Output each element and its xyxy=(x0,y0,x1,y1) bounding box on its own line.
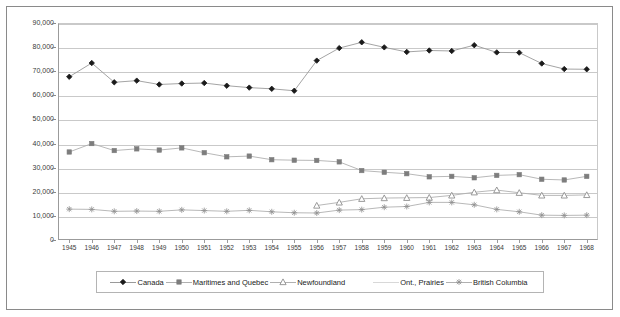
data-point-marker xyxy=(157,148,161,152)
data-point-marker xyxy=(494,207,499,212)
data-point-marker xyxy=(562,213,567,218)
data-point-marker xyxy=(112,148,116,152)
data-point-marker xyxy=(404,204,409,209)
data-point-marker xyxy=(180,146,184,150)
data-point-marker xyxy=(540,177,544,181)
data-point-marker xyxy=(247,85,252,90)
data-point-marker xyxy=(494,50,499,55)
series-line xyxy=(69,144,587,180)
data-point-marker xyxy=(337,208,342,213)
legend-item-canada[interactable]: Canada xyxy=(110,277,165,287)
data-point-marker xyxy=(121,279,126,284)
legend-item-label: British Columbia xyxy=(472,278,530,287)
data-point-marker xyxy=(517,209,522,214)
series-canada xyxy=(67,40,590,94)
data-point-marker xyxy=(67,150,71,154)
legend-item-label: Ont., Prairies xyxy=(399,278,446,287)
data-point-marker xyxy=(202,151,206,155)
chart-page: 010,00020,00030,00040,00050,00060,00070,… xyxy=(0,0,620,317)
data-point-marker xyxy=(539,213,544,218)
legend-item-label: Newfoundland xyxy=(296,278,347,287)
data-point-marker xyxy=(179,81,184,86)
legend-item-newfoundland[interactable]: Newfoundland xyxy=(270,277,347,287)
data-point-marker xyxy=(359,207,364,212)
data-point-marker xyxy=(134,208,139,213)
data-point-marker xyxy=(382,205,387,210)
data-point-marker xyxy=(562,178,566,182)
series-british-columbia xyxy=(67,200,590,218)
data-point-marker xyxy=(427,200,432,205)
data-point-marker xyxy=(472,176,476,180)
data-point-marker xyxy=(90,141,94,145)
chart-legend: CanadaMaritimes and QuebecNewfoundlandOn… xyxy=(96,271,544,293)
data-point-marker xyxy=(427,175,431,179)
data-point-marker xyxy=(225,155,229,159)
data-point-marker xyxy=(67,74,72,79)
data-point-marker xyxy=(337,160,341,164)
data-point-marker xyxy=(584,213,589,218)
data-point-marker xyxy=(89,207,94,212)
data-point-marker xyxy=(450,174,454,178)
data-point-marker xyxy=(404,49,409,54)
data-point-marker xyxy=(449,48,454,53)
legend-marker-none-icon xyxy=(373,277,399,287)
data-point-marker xyxy=(562,66,567,71)
legend-marker-triangle-icon xyxy=(270,277,296,287)
data-point-marker xyxy=(585,174,589,178)
data-point-marker xyxy=(280,279,286,285)
data-point-marker xyxy=(157,209,162,214)
data-point-marker xyxy=(315,158,319,162)
data-point-marker xyxy=(539,61,544,66)
data-point-marker xyxy=(67,207,72,212)
legend-items: CanadaMaritimes and QuebecNewfoundlandOn… xyxy=(97,272,543,292)
legend-item-label: Canada xyxy=(136,278,165,287)
data-point-marker xyxy=(269,86,274,91)
data-point-marker xyxy=(359,40,364,45)
legend-item-label: Maritimes and Quebec xyxy=(192,278,270,287)
data-point-marker xyxy=(224,83,229,88)
data-point-marker xyxy=(449,200,454,205)
data-point-marker xyxy=(247,208,252,213)
series-maritimes-and-quebec xyxy=(67,141,589,182)
data-point-marker xyxy=(135,147,139,151)
legend-item-maritimes-and-quebec[interactable]: Maritimes and Quebec xyxy=(166,277,270,287)
data-point-marker xyxy=(179,207,184,212)
data-point-marker xyxy=(495,173,499,177)
data-point-marker xyxy=(472,202,477,207)
legend-marker-diamond-icon xyxy=(110,277,136,287)
data-point-marker xyxy=(202,208,207,213)
data-point-marker xyxy=(270,158,274,162)
data-point-marker xyxy=(247,154,251,158)
data-point-marker xyxy=(134,78,139,83)
data-point-marker xyxy=(269,209,274,214)
series-layer xyxy=(0,0,620,317)
data-point-marker xyxy=(292,158,296,162)
data-point-marker xyxy=(517,50,522,55)
data-point-marker xyxy=(382,45,387,50)
data-point-marker xyxy=(427,48,432,53)
legend-marker-asterisk-icon xyxy=(446,277,472,287)
data-point-marker xyxy=(112,209,117,214)
data-point-marker xyxy=(456,279,461,284)
legend-item-ont-prairies[interactable]: Ont., Prairies xyxy=(373,277,446,287)
data-point-marker xyxy=(292,210,297,215)
data-point-marker xyxy=(382,170,386,174)
data-point-marker xyxy=(177,280,181,284)
data-point-marker xyxy=(314,210,319,215)
data-point-marker xyxy=(202,80,207,85)
data-point-marker xyxy=(517,172,521,176)
data-point-marker xyxy=(584,67,589,72)
legend-marker-square-icon xyxy=(166,277,192,287)
legend-item-british-columbia[interactable]: British Columbia xyxy=(446,277,530,287)
data-point-marker xyxy=(157,82,162,87)
data-point-marker xyxy=(360,168,364,172)
data-point-marker xyxy=(472,42,477,47)
data-point-marker xyxy=(337,45,342,50)
data-point-marker xyxy=(224,209,229,214)
series-line xyxy=(69,42,587,90)
data-point-marker xyxy=(405,171,409,175)
